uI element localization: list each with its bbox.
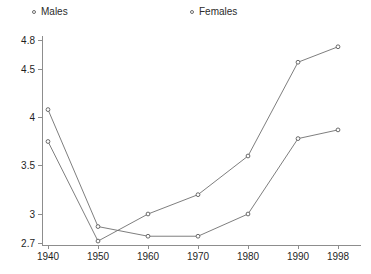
x-tick-label: 1960 — [137, 251, 160, 262]
data-series-group — [46, 45, 340, 243]
y-tick-label: 4.5 — [21, 64, 35, 75]
y-tick-label: 2.7 — [21, 238, 35, 249]
data-point-marker — [296, 60, 300, 64]
data-point-marker — [246, 212, 250, 216]
x-tick-label: 1980 — [237, 251, 260, 262]
data-point-marker — [196, 234, 200, 238]
y-tick-label: 3.5 — [21, 160, 35, 171]
data-point-marker — [246, 154, 250, 158]
x-tick-label: 1970 — [187, 251, 210, 262]
data-point-marker — [96, 239, 100, 243]
data-point-marker — [296, 137, 300, 141]
data-point-marker — [46, 140, 50, 144]
data-point-marker — [336, 45, 340, 49]
x-tick-label: 1950 — [87, 251, 110, 262]
series-line — [48, 110, 338, 237]
x-tick-label: 1990 — [287, 251, 310, 262]
data-point-marker — [196, 193, 200, 197]
series-males — [46, 108, 340, 238]
data-point-marker — [96, 225, 100, 229]
y-tick-label: 4.8 — [21, 35, 35, 46]
y-tick-label: 4 — [29, 112, 35, 123]
data-point-marker — [336, 128, 340, 132]
y-axis: 2.733.544.54.8 — [21, 35, 42, 249]
data-point-marker — [46, 108, 50, 112]
y-tick-label: 3 — [29, 209, 35, 220]
x-axis: 1940195019601970198019901998 — [37, 245, 361, 262]
x-tick-label: 1940 — [37, 251, 60, 262]
data-point-marker — [146, 212, 150, 216]
x-tick-label: 1998 — [327, 251, 350, 262]
data-point-marker — [146, 234, 150, 238]
line-chart: Males Females 2.733.544.54.8 19401950196… — [0, 0, 371, 274]
series-females — [46, 45, 340, 243]
plot-area: 2.733.544.54.8 1940195019601970198019901… — [0, 0, 371, 274]
